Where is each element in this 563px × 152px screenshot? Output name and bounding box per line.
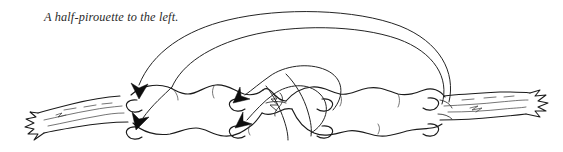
figure-caption: A half-pirouette to the left. bbox=[44, 9, 344, 25]
figure-root: A half-pirouette to the left. bbox=[0, 0, 563, 152]
caption-layer: A half-pirouette to the left. bbox=[44, 9, 344, 29]
